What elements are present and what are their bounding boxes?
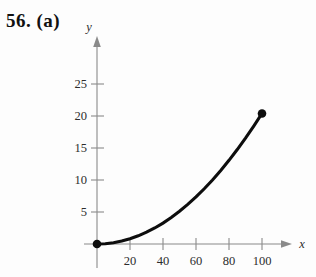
y-tick-label-15: 15	[75, 141, 88, 155]
x-tick-label-40: 40	[157, 254, 170, 268]
y-tick-label-10: 10	[75, 173, 88, 187]
x-tick-label-100: 100	[253, 254, 272, 268]
x-axis-group: x	[84, 237, 305, 251]
x-tick-label-20: 20	[124, 254, 137, 268]
y-tick-label-25: 25	[75, 77, 88, 91]
y-axis-label: y	[84, 20, 92, 34]
y-tick-labels: 5 10 15 20 25	[75, 77, 88, 219]
x-axis-arrowhead	[281, 240, 292, 248]
x-tick-label-60: 60	[190, 254, 203, 268]
data-curve	[97, 113, 262, 244]
origin-point-marker	[93, 240, 102, 249]
x-tick-label-80: 80	[223, 254, 236, 268]
terminal-point-marker	[258, 109, 267, 118]
graph-figure: y x 5 10 15 20 25	[0, 0, 316, 277]
figure-page: 56. (a) y x 5 10 15 20 25	[0, 0, 316, 277]
x-axis-label: x	[298, 237, 305, 251]
y-tick-label-5: 5	[81, 205, 87, 219]
x-tick-labels: 20 40 60 80 100	[124, 254, 272, 268]
y-axis-arrowhead	[93, 36, 101, 47]
y-tick-label-20: 20	[75, 109, 88, 123]
